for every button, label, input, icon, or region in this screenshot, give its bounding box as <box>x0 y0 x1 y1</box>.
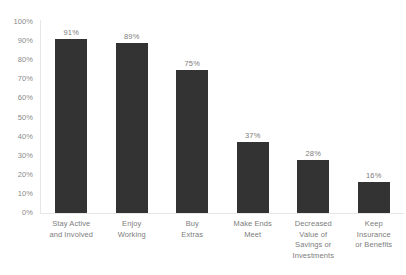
x-axis-category-label-line: Stay Active <box>38 219 105 230</box>
x-axis-category-label-line: Keep <box>341 219 406 230</box>
x-axis-category-label-line: Meet <box>220 230 287 241</box>
x-axis-category-label-line: Insurance <box>341 230 406 241</box>
x-axis-category-label-line: or Benefits <box>341 240 406 251</box>
x-axis-category-label-line: Enjoy <box>99 219 166 230</box>
y-axis-tick-label: 100% <box>0 18 33 26</box>
bar-rect[interactable] <box>116 43 148 213</box>
bar-rect[interactable] <box>237 142 269 213</box>
x-axis-category-label-line: Value of <box>280 230 347 241</box>
y-axis-tick-label: 0% <box>0 209 33 217</box>
y-axis: 100%90%80%70%60%50%40%30%20%10%0% <box>0 0 40 275</box>
x-axis-category-label-line: Investments <box>280 251 347 262</box>
y-axis-tick-label: 10% <box>0 190 33 198</box>
bar-group[interactable]: 16% <box>358 0 390 214</box>
x-axis-category-label: Make EndsMeet <box>220 219 287 240</box>
bar-value-label: 89% <box>116 33 148 41</box>
x-axis: Stay Activeand InvolvedEnjoyWorkingBuyEx… <box>41 219 404 275</box>
y-axis-tick-label: 20% <box>0 171 33 179</box>
plot-area: 91%89%75%37%28%16% <box>41 0 404 214</box>
y-axis-tick-label: 30% <box>0 152 33 160</box>
bar-rect[interactable] <box>297 160 329 213</box>
bar-value-label: 37% <box>237 132 269 140</box>
x-axis-category-label: DecreasedValue ofSavings orInvestments <box>280 219 347 261</box>
bar-group[interactable]: 75% <box>176 0 208 214</box>
bar-value-label: 75% <box>176 60 208 68</box>
x-axis-category-label-line: and Involved <box>38 230 105 241</box>
x-axis-category-label-line: Savings or <box>280 240 347 251</box>
x-axis-category-label: KeepInsuranceor Benefits <box>341 219 406 251</box>
y-axis-tick-label: 50% <box>0 114 33 122</box>
bar-rect[interactable] <box>358 182 390 213</box>
y-axis-tick-label: 40% <box>0 133 33 141</box>
bar-rect[interactable] <box>176 70 208 213</box>
y-axis-tick-label: 70% <box>0 75 33 83</box>
bar-group[interactable]: 37% <box>237 0 269 214</box>
x-axis-category-label-line: Decreased <box>280 219 347 230</box>
y-axis-tick-label: 60% <box>0 94 33 102</box>
x-axis-category-label: BuyExtras <box>159 219 226 240</box>
bar-rect[interactable] <box>55 39 87 213</box>
x-axis-category-label: EnjoyWorking <box>99 219 166 240</box>
x-axis-category-label-line: Extras <box>159 230 226 241</box>
x-axis-category-label: Stay Activeand Involved <box>38 219 105 240</box>
bar-chart: 100%90%80%70%60%50%40%30%20%10%0% 91%89%… <box>0 0 406 275</box>
y-axis-tick-label: 90% <box>0 37 33 45</box>
bar-group[interactable]: 89% <box>116 0 148 214</box>
bar-value-label: 91% <box>55 29 87 37</box>
bar-value-label: 16% <box>358 172 390 180</box>
x-axis-category-label-line: Make Ends <box>220 219 287 230</box>
x-axis-category-label-line: Buy <box>159 219 226 230</box>
x-axis-category-label-line: Working <box>99 230 166 241</box>
y-axis-tick-label: 80% <box>0 56 33 64</box>
bar-group[interactable]: 28% <box>297 0 329 214</box>
bar-value-label: 28% <box>297 150 329 158</box>
bar-group[interactable]: 91% <box>55 0 87 214</box>
